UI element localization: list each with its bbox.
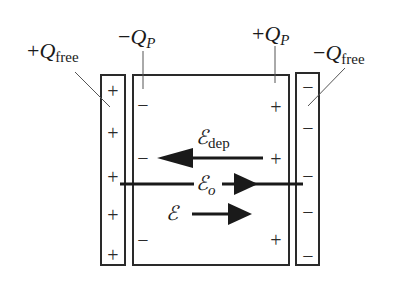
arrowhead-left-icon (157, 148, 193, 168)
minus-sign: − (137, 229, 148, 251)
capacitor-dielectric-diagram: + + + + + − − − − − − − − + + + +Qfree −… (0, 0, 394, 295)
plus-sign: + (107, 204, 118, 226)
right-plate-charges: − − − − − (302, 76, 313, 267)
minus-sign: − (137, 94, 148, 116)
arrowhead-right-icon (228, 203, 252, 225)
label-minus-q-p: −QP (118, 24, 155, 51)
plus-sign: + (107, 166, 118, 188)
depolarization-field-arrow (157, 148, 263, 168)
plus-sign: + (270, 229, 281, 251)
plus-sign: + (270, 96, 281, 118)
label-e: ℰ (166, 202, 180, 224)
arrowhead-right-icon (234, 173, 258, 195)
minus-sign: − (302, 117, 313, 139)
plus-sign: + (107, 80, 118, 102)
label-plus-q-free: +Qfree (27, 38, 79, 65)
label-e-dep: ℰdep (196, 126, 230, 151)
minus-sign: − (302, 245, 313, 267)
minus-sign: − (137, 147, 148, 169)
minus-sign: − (302, 76, 313, 98)
net-field-arrow (192, 203, 252, 225)
label-minus-q-free: −Qfree (313, 40, 365, 67)
minus-sign: − (302, 201, 313, 223)
dielectric-slab (133, 75, 289, 265)
minus-sign: − (302, 165, 313, 187)
plus-sign: + (270, 148, 281, 170)
dielectric-left-surface-charges: − − − (137, 94, 148, 251)
label-e-o: ℰo (196, 172, 216, 198)
dielectric-right-surface-charges: + + + (270, 96, 281, 251)
left-plate-charges: + + + + + (107, 80, 118, 266)
plus-sign: + (107, 244, 118, 266)
plus-sign: + (107, 122, 118, 144)
leader-line-plus-q-free (75, 72, 110, 107)
label-plus-q-p: +QP (252, 21, 289, 48)
